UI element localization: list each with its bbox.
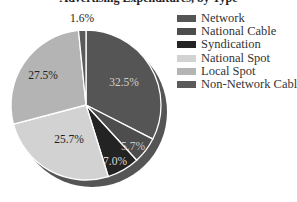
pie-chart: 32.5%5.7%7.0%25.7%27.5%1.6% — [0, 0, 180, 202]
legend-label: National Cable — [201, 25, 276, 38]
legend-swatch — [177, 81, 196, 88]
legend-item-network: Network — [177, 12, 297, 25]
legend-swatch — [177, 28, 196, 35]
legend-item-national-cable: National Cable — [177, 25, 297, 38]
legend-swatch — [177, 15, 196, 22]
legend-label: Local Spot — [201, 65, 256, 78]
legend-label: National Spot — [201, 52, 270, 65]
slice-label: 1.6% — [70, 12, 94, 24]
slice-label: 7.0% — [103, 155, 127, 167]
slice-label: 32.5% — [109, 76, 139, 88]
legend-label: Non-Network Cable — [201, 78, 297, 91]
legend-item-non-network-cable: Non-Network Cable — [177, 78, 297, 91]
legend-label: Syndication — [201, 38, 261, 51]
legend-label: Network — [201, 12, 245, 25]
legend-item-syndication: Syndication — [177, 38, 297, 51]
slice-label: 27.5% — [28, 69, 58, 81]
legend-item-local-spot: Local Spot — [177, 65, 297, 78]
pie-slices — [11, 30, 161, 180]
slice-label: 5.7% — [121, 140, 145, 152]
slice-label: 25.7% — [54, 133, 84, 145]
legend-swatch — [177, 68, 196, 75]
legend-swatch — [177, 41, 196, 48]
legend-swatch — [177, 55, 196, 62]
legend-item-national-spot: National Spot — [177, 52, 297, 65]
legend: Network National Cable Syndication Natio… — [177, 12, 297, 91]
